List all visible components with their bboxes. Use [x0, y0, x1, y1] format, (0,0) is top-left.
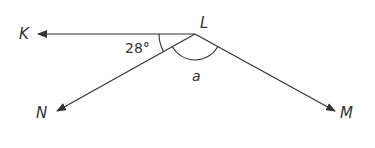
label-n: N [36, 106, 47, 121]
label-l: L [200, 16, 208, 31]
arc-angle-a [172, 47, 218, 60]
label-m: M [340, 106, 353, 121]
angle-label-a: a [192, 69, 201, 83]
arc-28-degrees [159, 34, 164, 52]
angle-diagram [0, 0, 375, 148]
ray-lm [195, 34, 335, 111]
label-k: K [19, 27, 29, 42]
angle-label-28: 28° [125, 41, 150, 55]
